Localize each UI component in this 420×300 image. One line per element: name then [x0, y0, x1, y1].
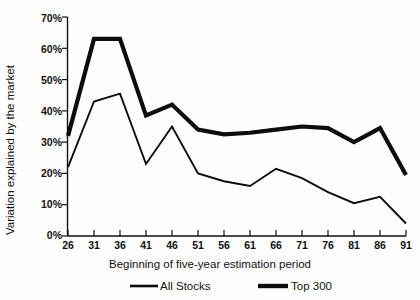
- chart-legend: All Stocks Top 300: [130, 280, 332, 292]
- line-chart: Variation explained by the market 70% 60…: [0, 0, 420, 300]
- x-tick-label: 61: [244, 239, 256, 251]
- x-tick-label: 86: [374, 239, 386, 251]
- y-tick-label: 60%: [41, 43, 63, 55]
- legend-label-all-stocks: All Stocks: [160, 280, 211, 292]
- y-tick-label: 10%: [41, 198, 63, 210]
- x-tick-labels: 26 31 36 41 46 51 56 61 66 71 76 81 86 9…: [62, 239, 412, 251]
- x-tick-marks: [68, 230, 406, 236]
- y-tick-label: 0%: [47, 229, 63, 241]
- y-tick-label: 20%: [41, 167, 63, 179]
- x-tick-label: 56: [218, 239, 230, 251]
- y-axis-title: Variation explained by the market: [4, 64, 16, 235]
- chart-figure: Variation explained by the market 70% 60…: [0, 0, 420, 300]
- x-tick-label: 36: [114, 239, 126, 251]
- x-tick-label: 76: [322, 239, 334, 251]
- y-tick-label: 70%: [41, 12, 63, 24]
- x-tick-label: 66: [270, 239, 282, 251]
- y-tick-label: 50%: [41, 74, 63, 86]
- x-tick-label: 91: [400, 239, 412, 251]
- legend-label-top-300: Top 300: [291, 280, 332, 292]
- y-tick-labels: 70% 60% 50% 40% 30% 20% 10% 0%: [41, 12, 63, 241]
- series-line-all-stocks: [68, 94, 406, 224]
- x-tick-label: 31: [88, 239, 100, 251]
- y-tick-label: 40%: [41, 105, 63, 117]
- series-line-top-300: [68, 39, 406, 175]
- x-tick-label: 71: [296, 239, 308, 251]
- y-tick-label: 30%: [41, 136, 63, 148]
- x-tick-label: 26: [62, 239, 74, 251]
- x-tick-label: 41: [140, 239, 152, 251]
- x-tick-label: 81: [348, 239, 360, 251]
- x-axis-title: Beginning of five-year estimation period: [109, 258, 311, 270]
- x-tick-label: 46: [166, 239, 178, 251]
- x-tick-label: 51: [192, 239, 204, 251]
- y-tick-marks: [62, 17, 68, 236]
